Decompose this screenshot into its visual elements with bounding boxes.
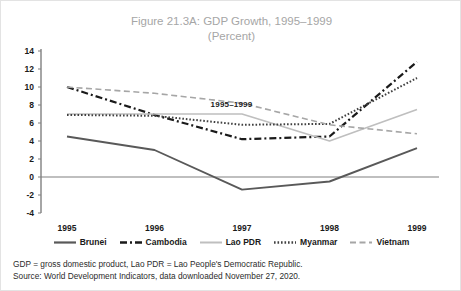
legend-swatch-cambodia-icon (120, 238, 142, 247)
note-definitions: GDP = gross domestic product, Lao PDR = … (13, 259, 453, 271)
plot-annotation: 1995–1999 (1, 100, 461, 109)
line-chart (1, 45, 461, 225)
x-tick-label: 1996 (145, 223, 164, 233)
chart-legend: BruneiCambodiaLao PDRMyanmarVietnam (1, 237, 461, 247)
legend-item-vietnam[interactable]: Vietnam (350, 237, 409, 247)
legend-item-lao-pdr[interactable]: Lao PDR (200, 237, 261, 247)
x-tick-label: 1999 (408, 223, 427, 233)
legend-item-cambodia[interactable]: Cambodia (120, 237, 187, 247)
legend-label: Myanmar (300, 237, 337, 247)
chart-title-line2: (Percent) (1, 29, 461, 44)
series-line-vietnam (67, 87, 417, 134)
legend-label: Vietnam (376, 237, 409, 247)
x-axis-labels: 19951996199719981999 (1, 223, 461, 237)
legend-label: Brunei (80, 237, 107, 247)
chart-title: Figure 21.3A: GDP Growth, 1995–1999 (Per… (1, 14, 461, 44)
note-source: Source: World Development Indicators, da… (13, 271, 453, 283)
x-tick-label: 1995 (58, 223, 77, 233)
plot-area: 1995–1999 (1, 45, 461, 225)
x-tick-label: 1998 (320, 223, 339, 233)
legend-label: Lao PDR (226, 237, 261, 247)
legend-label: Cambodia (146, 237, 187, 247)
figure-notes: GDP = gross domestic product, Lao PDR = … (13, 259, 453, 282)
legend-item-brunei[interactable]: Brunei (54, 237, 107, 247)
legend-swatch-lao-pdr-icon (200, 238, 222, 247)
figure-container: Figure 21.3A: GDP Growth, 1995–1999 (Per… (0, 0, 461, 291)
chart-title-line1: Figure 21.3A: GDP Growth, 1995–1999 (131, 15, 332, 27)
legend-swatch-brunei-icon (54, 238, 76, 247)
legend-item-myanmar[interactable]: Myanmar (274, 237, 337, 247)
x-tick-label: 1997 (233, 223, 252, 233)
legend-swatch-myanmar-icon (274, 238, 296, 247)
legend-swatch-vietnam-icon (350, 238, 372, 247)
series-line-brunei (67, 137, 417, 190)
